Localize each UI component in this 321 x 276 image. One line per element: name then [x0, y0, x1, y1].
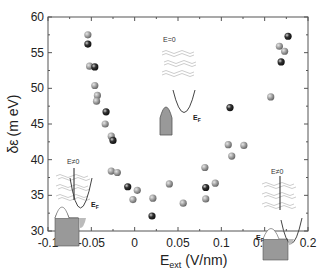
data-point-gray	[166, 180, 173, 187]
x-tick-label: 0.1	[213, 236, 230, 250]
data-point-gray	[134, 187, 141, 194]
data-point-gray	[93, 98, 100, 105]
data-point-black	[148, 212, 155, 219]
data-point-gray	[149, 195, 156, 202]
scatter-chart: -0.1-0.0500.050.10.150.2 30354045505560 …	[0, 0, 321, 276]
y-tick-label: 45	[31, 117, 45, 131]
data-point-black	[226, 104, 233, 111]
data-point-gray	[240, 142, 247, 149]
inset-left: E≠0 EF	[55, 158, 99, 246]
inset-left-label: E≠0	[67, 158, 80, 165]
y-tick-label: 60	[31, 10, 45, 24]
valence-band-icon	[263, 239, 288, 260]
x-axis-title: Eext(V/nm)	[160, 252, 227, 270]
data-point-black	[84, 41, 91, 48]
data-point-gray	[114, 169, 121, 176]
graphene-layers-icon	[162, 51, 196, 77]
data-point-black	[109, 137, 116, 144]
x-tick-label: 0	[131, 236, 138, 250]
graphene-layers-icon	[56, 175, 90, 201]
inset-right: E≠0 EF	[256, 168, 302, 260]
y-axis-title: δε(m eV)	[5, 94, 21, 153]
data-point-black	[284, 33, 291, 40]
y-tick-label: 55	[31, 46, 45, 60]
x-tick-label: -0.05	[78, 236, 106, 250]
data-point-gray	[225, 141, 232, 148]
y-tick-label: 40	[31, 153, 45, 167]
data-points	[84, 31, 291, 219]
data-point-gray	[180, 200, 187, 207]
data-point-black	[124, 183, 131, 190]
y-tick-label: 35	[31, 188, 45, 202]
data-point-gray	[281, 48, 288, 55]
data-point-gray	[108, 167, 115, 174]
x-tick-label: 0.05	[166, 236, 190, 250]
data-point-gray	[202, 195, 209, 202]
data-point-gray	[102, 120, 109, 127]
data-point-black	[91, 63, 98, 70]
conduction-band-icon	[70, 178, 92, 208]
data-point-gray	[276, 43, 283, 50]
data-point-gray	[201, 164, 208, 171]
data-point-black	[202, 184, 209, 191]
data-point-black	[278, 58, 285, 65]
data-point-gray	[84, 31, 91, 38]
data-point-gray	[267, 93, 274, 100]
ef-label-center: EF	[193, 114, 201, 123]
data-point-black	[102, 108, 109, 115]
data-point-gray	[212, 180, 219, 187]
valence-band-icon	[160, 107, 172, 135]
y-tick-label: 50	[31, 81, 45, 95]
y-tick-label: 30	[31, 224, 45, 238]
y-tick-labels: 30354045505560	[31, 10, 45, 238]
inset-center: E=0 EF	[160, 36, 201, 135]
graphene-layers-icon	[262, 183, 296, 209]
conduction-band-icon	[173, 90, 195, 113]
inset-center-label: E=0	[163, 36, 176, 43]
data-point-gray	[228, 153, 235, 160]
ef-label-left: EF	[91, 201, 99, 210]
valence-band-icon	[55, 218, 79, 246]
data-point-gray	[129, 196, 136, 203]
x-tick-label: 0.2	[300, 236, 317, 250]
inset-right-label: E≠0	[271, 168, 284, 175]
data-point-gray	[91, 82, 98, 89]
